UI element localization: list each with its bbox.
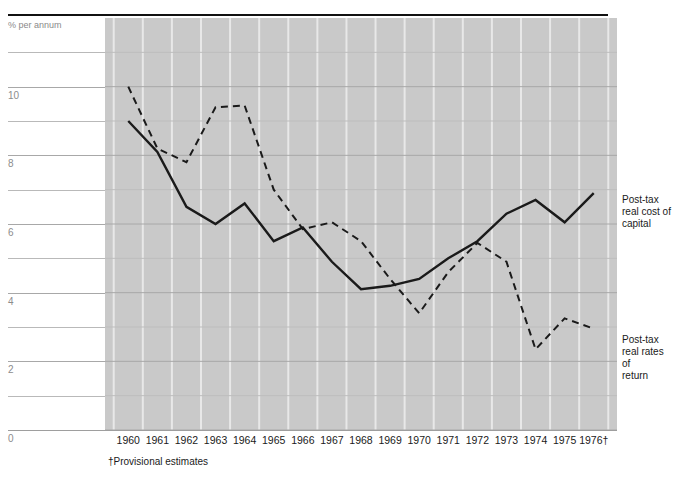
y-axis-title: % per annum [8, 20, 62, 30]
y-tick-label: 2 [8, 365, 14, 375]
x-tick-label: 1970 [405, 434, 434, 446]
x-tick-label: 1961 [143, 434, 172, 446]
x-tick-label: 1972 [463, 434, 492, 446]
x-tick-label: 1963 [201, 434, 230, 446]
x-tick-label: 1975 [550, 434, 579, 446]
series-dashed [128, 87, 593, 350]
x-tick-label: 1969 [376, 434, 405, 446]
y-gridline-major [8, 224, 105, 225]
x-tick-label: 1971 [434, 434, 463, 446]
y-gridline-minor [8, 52, 105, 53]
y-tick-label: 0 [8, 434, 14, 444]
x-tick-label: 1967 [317, 434, 346, 446]
plot-area [105, 18, 617, 430]
horizontal-gridlines [105, 52, 617, 430]
series-label-cost-of-capital-line: capital [622, 218, 673, 230]
x-axis-line [8, 430, 617, 431]
chart-title [180, 0, 540, 8]
x-tick-label: 1968 [346, 434, 375, 446]
title-divider-rule [8, 14, 608, 16]
y-gridline-minor [8, 121, 105, 122]
series-label-cost-of-capital: Post-taxreal cost ofcapital [622, 194, 673, 230]
series-solid [128, 121, 593, 289]
y-tick-label: 8 [8, 159, 14, 169]
x-tick-label: 1976† [579, 434, 608, 446]
x-tick-label: 1960 [114, 434, 143, 446]
series-label-rates-of-return-line: return [622, 370, 673, 382]
series-label-cost-of-capital-line: real cost of [622, 206, 673, 218]
y-gridline-minor [8, 190, 105, 191]
y-gridline-minor [8, 327, 105, 328]
y-gridline-minor [8, 396, 105, 397]
series-label-rates-of-return-line: Post-tax [622, 334, 673, 346]
y-gridline-major [8, 155, 105, 156]
footnote: †Provisional estimates [108, 456, 208, 467]
series-label-rates-of-return: Post-taxreal rates ofreturn [622, 334, 673, 382]
y-gridline-major [8, 361, 105, 362]
x-tick-label: 1973 [492, 434, 521, 446]
chart-figure: % per annum 0246810 19601961196219631964… [0, 0, 673, 477]
y-gridline-major [8, 293, 105, 294]
series-label-cost-of-capital-line: Post-tax [622, 194, 673, 206]
series-lines [128, 87, 593, 350]
y-tick-label: 6 [8, 228, 14, 238]
x-tick-label: 1974 [521, 434, 550, 446]
plot-canvas [105, 18, 617, 430]
x-tick-label: 1964 [230, 434, 259, 446]
series-label-rates-of-return-line: real rates of [622, 346, 673, 370]
x-tick-label: 1962 [172, 434, 201, 446]
y-tick-label: 4 [8, 297, 14, 307]
x-tick-label: 1966 [288, 434, 317, 446]
x-tick-label: 1965 [259, 434, 288, 446]
y-gridline-major [8, 87, 105, 88]
y-gridline-minor [8, 258, 105, 259]
y-tick-label: 10 [8, 91, 19, 101]
